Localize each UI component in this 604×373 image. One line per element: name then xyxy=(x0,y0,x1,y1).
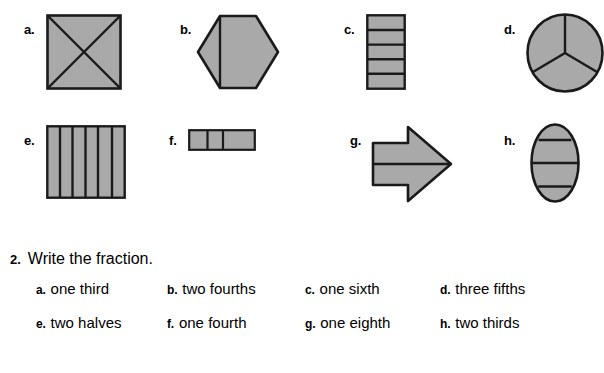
answer-text-a: one third xyxy=(51,280,109,297)
answer-text-h: two thirds xyxy=(455,314,519,331)
answer-letter-c: c. xyxy=(305,283,315,297)
answer-item-c[interactable]: c. one sixth xyxy=(305,280,380,297)
vertical-rectangle-divided-into-five-rows-shape xyxy=(366,14,406,90)
square-divided-into-four-triangles-shape xyxy=(46,14,122,90)
question-number: 2. xyxy=(10,252,21,267)
right-arrow-divided-in-half-shape xyxy=(370,124,453,204)
circle-divided-into-three-sectors-shape xyxy=(526,13,604,93)
answer-item-h[interactable]: h. two thirds xyxy=(440,314,519,331)
answer-letter-a: a. xyxy=(36,283,46,297)
answer-item-g[interactable]: g. one eighth xyxy=(305,314,390,331)
shape-cell-g: g. xyxy=(302,116,452,216)
answer-item-f[interactable]: f. one fourth xyxy=(167,314,247,331)
shape-label-d: d. xyxy=(504,23,515,36)
answer-letter-d: d. xyxy=(440,283,450,297)
shape-label-a: a. xyxy=(24,23,34,36)
shape-cell-e: e. xyxy=(2,116,152,216)
shape-label-h: h. xyxy=(504,134,515,147)
square-divided-into-six-columns-shape xyxy=(46,125,126,199)
hexagon-divided-by-vertical-line-shape xyxy=(196,14,280,90)
answer-letter-e: e. xyxy=(36,317,46,331)
answer-item-b[interactable]: b. two fourths xyxy=(167,280,256,297)
answer-row-1: a. one third b. two fourths c. one sixth… xyxy=(0,280,601,314)
shape-cell-b: b. xyxy=(152,6,302,106)
answer-row-2: e. two halves f. one fourth g. one eight… xyxy=(0,314,601,348)
answer-letter-f: f. xyxy=(167,317,174,331)
shape-cell-a: a. xyxy=(2,6,152,106)
answer-letter-g: g. xyxy=(305,317,315,331)
answer-item-a[interactable]: a. one third xyxy=(36,280,109,297)
shape-label-c: c. xyxy=(344,23,354,36)
answer-letter-b: b. xyxy=(167,283,177,297)
ellipse-divided-into-four-bands-shape xyxy=(530,123,580,203)
shape-cell-c: c. xyxy=(302,6,452,106)
answer-text-e: two halves xyxy=(51,314,122,331)
shape-label-e: e. xyxy=(24,134,34,147)
answer-item-d[interactable]: d. three fifths xyxy=(440,280,525,297)
answer-text-d: three fifths xyxy=(455,280,525,297)
answer-text-g: one eighth xyxy=(320,314,390,331)
horizontal-bar-divided-into-three-parts-shape xyxy=(188,129,256,151)
shape-row-2: e. f. xyxy=(0,116,601,216)
shape-row-1: a. b. c. xyxy=(0,6,601,106)
answer-text-b: two fourths xyxy=(182,280,255,297)
answer-item-e[interactable]: e. two halves xyxy=(36,314,121,331)
shape-cell-f: f. xyxy=(152,116,302,216)
shape-cell-h: h. xyxy=(452,116,602,216)
shape-label-f: f. xyxy=(169,134,177,147)
question-prompt-text: Write the fraction. xyxy=(28,250,153,268)
shape-label-g: g. xyxy=(350,134,361,147)
answer-letter-h: h. xyxy=(440,317,450,331)
shape-cell-d: d. xyxy=(452,6,602,106)
shape-label-b: b. xyxy=(180,23,191,36)
question-prompt-line: 2. Write the fraction. xyxy=(10,250,153,268)
answer-text-c: one sixth xyxy=(320,280,380,297)
answer-text-f: one fourth xyxy=(179,314,247,331)
